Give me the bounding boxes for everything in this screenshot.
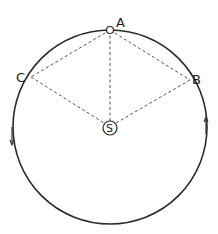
label-a: A <box>116 15 125 30</box>
line-a-c <box>31 30 110 77</box>
point-a-marker <box>107 27 114 34</box>
line-b-s <box>116 80 190 123</box>
label-b: B <box>192 72 201 87</box>
label-c: C <box>16 70 25 85</box>
line-a-b <box>110 30 190 80</box>
orbit-diagram: A B C S <box>0 0 218 234</box>
dashed-lines <box>31 30 190 123</box>
line-c-s <box>31 77 104 123</box>
label-s: S <box>106 122 113 135</box>
